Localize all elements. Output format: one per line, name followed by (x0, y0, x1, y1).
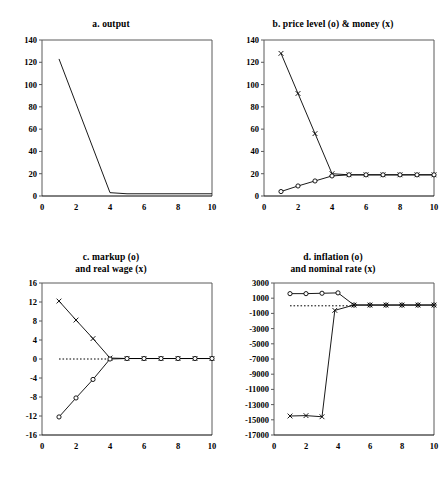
x-tick-label: 6 (142, 441, 146, 451)
x-tick-label: 2 (74, 441, 78, 451)
x-tick-label: 6 (364, 202, 368, 212)
data-point-marker-x (279, 51, 284, 56)
x-tick-label: 0 (40, 202, 44, 212)
y-tick-label: 60 (29, 124, 38, 134)
y-tick-label: 12 (29, 297, 38, 307)
data-point-marker-o (415, 173, 419, 177)
y-tick-label: 140 (246, 35, 259, 45)
data-point-marker-o (279, 189, 283, 193)
x-tick-label: 2 (296, 202, 300, 212)
x-tick-label: 0 (262, 202, 266, 212)
x-tick-label: 2 (304, 441, 308, 451)
panel-b-plot: 0204060801001201400246810 (222, 0, 444, 239)
data-point-marker-o (193, 356, 197, 360)
y-tick-label: 140 (24, 35, 37, 45)
y-tick-label: 0 (255, 191, 259, 201)
y-tick-label: -12 (26, 411, 37, 421)
y-tick-label: 80 (29, 102, 38, 112)
y-tick-label: -17000 (245, 430, 269, 440)
data-point-marker-o (381, 173, 385, 177)
data-point-marker-o (210, 356, 214, 360)
data-point-marker-x (74, 318, 79, 323)
y-tick-label: -3000 (249, 324, 269, 334)
x-tick-label: 10 (208, 202, 217, 212)
y-tick-label: 80 (251, 102, 260, 112)
y-tick-label: -9000 (249, 369, 269, 379)
series-line (59, 359, 212, 417)
y-tick-label: -11000 (245, 384, 269, 394)
y-tick-label: -13000 (245, 400, 269, 410)
y-tick-label: 4 (33, 335, 38, 345)
y-tick-label: -5000 (249, 339, 269, 349)
y-tick-label: 100 (246, 80, 259, 90)
data-point-marker-x (91, 336, 96, 341)
y-tick-label: 1000 (252, 293, 269, 303)
y-tick-label: 16 (29, 278, 38, 288)
data-point-marker-o (176, 356, 180, 360)
y-tick-label: 60 (251, 124, 260, 134)
y-tick-label: 0 (33, 354, 37, 364)
y-tick-label: 20 (251, 169, 260, 179)
x-tick-label: 8 (398, 202, 402, 212)
series-line (281, 175, 434, 192)
data-point-marker-o (330, 174, 334, 178)
x-tick-label: 6 (368, 441, 372, 451)
series-line (59, 59, 212, 194)
y-tick-label: 8 (33, 316, 37, 326)
x-tick-label: 10 (208, 441, 217, 451)
panel-c-plot: -16-12-8-404812160246810 (0, 239, 222, 478)
data-point-marker-o (313, 179, 317, 183)
y-tick-label: -15000 (245, 415, 269, 425)
y-tick-label: -4 (30, 373, 38, 383)
x-tick-label: 0 (272, 441, 276, 451)
data-point-marker-o (336, 291, 340, 295)
data-point-marker-o (432, 173, 436, 177)
data-point-marker-o (57, 415, 61, 419)
x-tick-label: 4 (108, 441, 113, 451)
series-line (290, 293, 434, 305)
y-tick-label: 0 (33, 191, 37, 201)
y-tick-label: -7000 (249, 354, 269, 364)
data-point-marker-o (398, 173, 402, 177)
data-point-marker-o (347, 173, 351, 177)
series-line (59, 301, 212, 358)
panel-d-plot: -17000-15000-13000-11000-9000-7000-5000-… (222, 239, 444, 478)
panel-c-markup-real-wage: c. markup (o) and real wage (x) -16-12-8… (0, 239, 222, 478)
x-tick-label: 4 (336, 441, 341, 451)
y-tick-label: -8 (30, 392, 37, 402)
y-tick-label: 40 (251, 146, 260, 156)
data-point-marker-o (296, 184, 300, 188)
panel-a-output: a. output 0204060801001201400246810 (0, 0, 222, 239)
series-line (281, 53, 434, 174)
figure-container: a. output 0204060801001201400246810 b. p… (0, 0, 444, 478)
data-point-marker-o (142, 356, 146, 360)
y-tick-label: 120 (246, 57, 259, 67)
y-tick-label: 20 (29, 169, 38, 179)
x-tick-label: 2 (74, 202, 78, 212)
x-tick-label: 0 (40, 441, 44, 451)
x-tick-label: 4 (330, 202, 335, 212)
x-tick-label: 10 (430, 441, 439, 451)
panel-b-price-level-money: b. price level (o) & money (x) 020406080… (222, 0, 444, 239)
x-tick-label: 8 (176, 441, 180, 451)
y-tick-label: 120 (24, 57, 37, 67)
x-tick-label: 8 (176, 202, 180, 212)
y-tick-label: -16 (26, 430, 37, 440)
data-point-marker-x (296, 91, 301, 96)
x-tick-label: 10 (430, 202, 439, 212)
series-line (290, 305, 434, 417)
data-point-marker-o (74, 396, 78, 400)
data-point-marker-o (108, 357, 112, 361)
panel-d-inflation-nominal-rate: d. inflation (o) and nominal rate (x) -1… (222, 239, 444, 478)
data-point-marker-o (364, 173, 368, 177)
y-tick-label: -1000 (249, 308, 269, 318)
x-tick-label: 8 (400, 441, 404, 451)
panel-a-plot: 0204060801001201400246810 (0, 0, 222, 239)
y-tick-label: 40 (29, 146, 38, 156)
data-point-marker-o (125, 356, 129, 360)
data-point-marker-o (304, 292, 308, 296)
data-point-marker-o (320, 291, 324, 295)
y-tick-label: 3000 (252, 278, 269, 288)
data-point-marker-o (159, 356, 163, 360)
y-tick-label: 100 (24, 80, 37, 90)
